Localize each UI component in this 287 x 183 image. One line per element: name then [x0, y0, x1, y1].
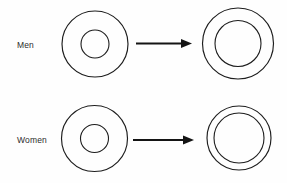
- women-before-outer-circle: [62, 106, 128, 172]
- men-before-inner-circle: [81, 30, 109, 58]
- women-before-ring: [62, 106, 128, 172]
- men-arrow-head: [181, 39, 192, 48]
- women-arrow-head: [183, 136, 194, 145]
- figure-container: Men Women: [0, 0, 287, 183]
- men-before-ring: [62, 11, 128, 77]
- women-after-outer-circle: [207, 106, 271, 170]
- diagram-row-women: Women: [17, 106, 271, 172]
- ring-diagram-svg: Men Women: [0, 0, 287, 183]
- women-before-inner-circle: [81, 125, 109, 153]
- men-after-ring: [203, 8, 274, 79]
- row-label-men: Men: [17, 40, 34, 50]
- women-arrow: [133, 136, 194, 145]
- row-label-women: Women: [17, 135, 47, 145]
- men-before-outer-circle: [62, 11, 128, 77]
- men-arrow: [136, 39, 192, 48]
- diagram-row-men: Men: [17, 8, 274, 79]
- women-after-inner-circle: [214, 113, 264, 163]
- men-after-outer-circle: [203, 8, 274, 79]
- women-after-ring: [207, 106, 271, 170]
- men-after-inner-circle: [215, 21, 261, 67]
